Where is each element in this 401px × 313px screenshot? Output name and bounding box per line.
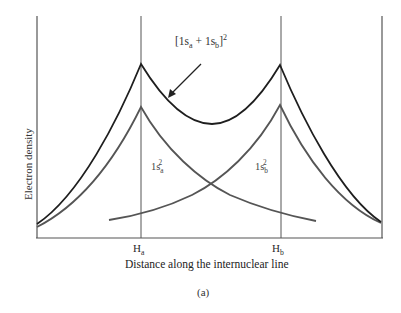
curve-b-label: 1sb2 — [255, 158, 267, 175]
tick-label-hb: Hb — [272, 242, 284, 257]
tick-label-ha: Ha — [133, 242, 144, 257]
electron-density-diagram: [1sa + 1sb]2 1sa2 1sb2 Electron density … — [0, 0, 401, 313]
curve-sum-squared — [37, 64, 381, 224]
figure-caption: (a) — [197, 286, 209, 298]
x-axis-label: Distance along the internuclear line — [125, 258, 289, 270]
label-arrow — [171, 64, 201, 94]
sum-curve-label: [1sa + 1sb]2 — [175, 33, 227, 50]
curve-1sa-squared — [37, 107, 316, 227]
y-axis-label: Electron density — [22, 128, 34, 200]
curve-a-label: 1sa2 — [151, 158, 162, 175]
